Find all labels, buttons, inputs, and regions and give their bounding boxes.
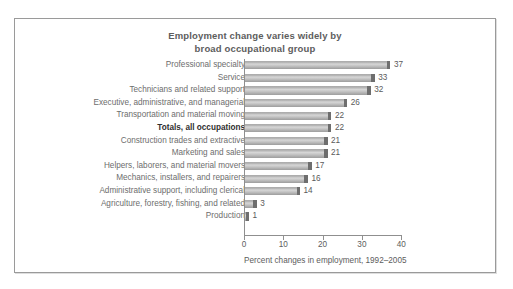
- bar-category-label: Mechanics, installers, and repairers: [116, 172, 245, 185]
- plot-area: Professional specialty37Service33Technic…: [15, 59, 497, 274]
- bar-track: 26: [245, 99, 347, 107]
- bar-track: 16: [245, 175, 308, 183]
- x-axis-tick: [362, 236, 363, 240]
- bar: [245, 86, 371, 94]
- bar-value-label: 21: [331, 149, 340, 157]
- bar-end-cap: [367, 86, 370, 94]
- bar-track: 37: [245, 61, 390, 69]
- bar-value-label: 22: [335, 112, 344, 120]
- bar-track: 22: [245, 124, 331, 132]
- bar-row: Transportation and material moving22: [15, 109, 497, 122]
- bar-category-label: Totals, all occupations: [157, 122, 245, 135]
- bar-row: Marketing and sales21: [15, 147, 497, 160]
- bar-end-cap: [328, 124, 331, 132]
- bar: [245, 175, 308, 183]
- bar-category-label: Construction trades and extractive: [121, 135, 245, 148]
- x-axis-tick-label: 40: [397, 240, 406, 249]
- x-axis-tick-label: 0: [242, 240, 247, 249]
- chart-title-line-2: broad occupational group: [15, 43, 495, 56]
- bar-track: 33: [245, 74, 375, 82]
- bar: [245, 61, 390, 69]
- bar: [245, 187, 300, 195]
- bar-value-label: 16: [311, 175, 320, 183]
- bar-end-cap: [304, 175, 307, 183]
- bar-end-cap: [246, 212, 249, 220]
- bar-row: Service33: [15, 72, 497, 85]
- bar: [245, 200, 257, 208]
- bar-row: Technicians and related support32: [15, 84, 497, 97]
- bar-end-cap: [387, 61, 390, 69]
- bar: [245, 112, 331, 120]
- bar-value-label: 21: [331, 137, 340, 145]
- bar-category-label: Technicians and related support: [129, 84, 245, 97]
- bar-value-label: 3: [260, 200, 265, 208]
- bar-end-cap: [328, 112, 331, 120]
- bar-track: 32: [245, 86, 371, 94]
- x-axis-label: Percent changes in employment, 1992–2005: [244, 256, 402, 265]
- x-axis-tick: [244, 236, 245, 240]
- bar-category-label: Professional specialty: [166, 59, 245, 72]
- bar-end-cap: [308, 162, 311, 170]
- bar-row: Production1: [15, 210, 497, 223]
- bar-category-label: Agriculture, forestry, fishing, and rela…: [101, 198, 245, 211]
- bar-rows: Professional specialty37Service33Technic…: [15, 59, 497, 223]
- bar-track: 14: [245, 187, 300, 195]
- bar-value-label: 26: [351, 99, 360, 107]
- bar-row: Mechanics, installers, and repairers16: [15, 172, 497, 185]
- chart-frame: Employment change varies widely by broad…: [14, 18, 496, 273]
- bar-value-label: 33: [378, 74, 387, 82]
- bar-end-cap: [253, 200, 256, 208]
- bar-category-label: Executive, administrative, and manageria…: [93, 97, 245, 110]
- bar-row: Construction trades and extractive21: [15, 135, 497, 148]
- bar: [245, 162, 312, 170]
- x-axis-tick-label: 20: [318, 240, 327, 249]
- x-axis-tick: [401, 236, 402, 240]
- bar-row: Administrative support, including cleric…: [15, 185, 497, 198]
- bar-value-label: 14: [304, 187, 313, 195]
- bar: [245, 124, 331, 132]
- bar-row: Helpers, laborers, and material movers17: [15, 160, 497, 173]
- bar-value-label: 22: [335, 124, 344, 132]
- bar: [245, 149, 328, 157]
- bar-value-label: 37: [394, 61, 403, 69]
- bar-end-cap: [371, 74, 374, 82]
- bar: [245, 137, 328, 145]
- bar-category-label: Production: [206, 210, 245, 223]
- bar-category-label: Helpers, laborers, and material movers: [104, 160, 245, 173]
- bar-track: 21: [245, 149, 328, 157]
- bar-row: Agriculture, forestry, fishing, and rela…: [15, 198, 497, 211]
- y-axis-line: [244, 59, 245, 235]
- bar-track: 21: [245, 137, 328, 145]
- x-axis-tick: [283, 236, 284, 240]
- bar-track: 1: [245, 212, 249, 220]
- x-axis-tick-label: 10: [279, 240, 288, 249]
- x-axis-tick: [323, 236, 324, 240]
- bar-category-label: Administrative support, including cleric…: [99, 185, 245, 198]
- bar-row: Totals, all occupations22: [15, 122, 497, 135]
- bar-end-cap: [297, 187, 300, 195]
- bar-track: 3: [245, 200, 257, 208]
- bar: [245, 212, 249, 220]
- bar-end-cap: [324, 149, 327, 157]
- chart-title: Employment change varies widely by broad…: [15, 30, 495, 55]
- bar-value-label: 17: [315, 162, 324, 170]
- bar-track: 22: [245, 112, 331, 120]
- chart-title-line-1: Employment change varies widely by: [15, 30, 495, 43]
- bar-track: 17: [245, 162, 312, 170]
- bar-value-label: 32: [374, 86, 383, 94]
- bar-end-cap: [344, 99, 347, 107]
- bar-category-label: Service: [218, 72, 245, 85]
- bar-category-label: Marketing and sales: [172, 147, 245, 160]
- bar-row: Executive, administrative, and manageria…: [15, 97, 497, 110]
- bar: [245, 74, 375, 82]
- bar-row: Professional specialty37: [15, 59, 497, 72]
- bar-category-label: Transportation and material moving: [117, 109, 246, 122]
- x-axis-tick-label: 30: [357, 240, 366, 249]
- bar-end-cap: [324, 137, 327, 145]
- bar: [245, 99, 347, 107]
- bar-value-label: 1: [252, 212, 257, 220]
